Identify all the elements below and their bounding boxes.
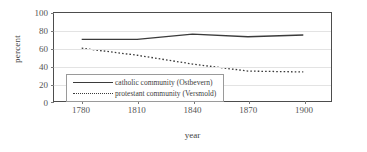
y-tick-mark xyxy=(51,13,54,14)
legend-label: catholic community (Ostbevern) xyxy=(115,78,212,87)
legend-entry-catholic: catholic community (Ostbevern) xyxy=(67,77,223,88)
x-tick-label: 1840 xyxy=(173,105,213,116)
y-tick-label: 40 xyxy=(26,63,48,72)
y-tick-label: 0 xyxy=(26,99,48,108)
y-tick-label: 80 xyxy=(26,27,48,36)
x-tick-label: 1900 xyxy=(284,105,324,116)
y-tick-label: 60 xyxy=(26,45,48,54)
chart-legend: catholic community (Ostbevern) protestan… xyxy=(66,74,224,102)
x-axis-tick-labels: 1780 1810 1840 1870 1900 xyxy=(53,105,332,119)
x-tick-label: 1780 xyxy=(61,105,101,116)
y-axis-tick-labels: 100 80 60 40 20 0 xyxy=(22,0,48,152)
series-line-protestant xyxy=(82,48,304,72)
y-tick-label: 20 xyxy=(26,81,48,90)
series-line-catholic xyxy=(82,34,304,39)
gridline xyxy=(54,31,331,32)
gridline xyxy=(54,67,331,68)
y-tick-mark xyxy=(51,102,54,103)
x-tick-mark xyxy=(249,101,250,104)
y-tick-mark xyxy=(51,67,54,68)
legend-solid-line-icon xyxy=(71,78,115,87)
line-chart: percent 100 80 60 40 20 0 1780 1810 1840… xyxy=(0,0,367,152)
x-axis-title: year xyxy=(53,130,332,140)
x-tick-label: 1810 xyxy=(117,105,157,116)
legend-dotted-line-icon xyxy=(71,89,115,98)
x-tick-label: 1870 xyxy=(228,105,268,116)
y-tick-mark xyxy=(51,31,54,32)
legend-label: protestant community (Versmold) xyxy=(115,89,216,98)
y-axis-title: percent xyxy=(12,19,22,79)
y-tick-mark xyxy=(51,49,54,50)
legend-entry-protestant: protestant community (Versmold) xyxy=(67,88,223,99)
gridline xyxy=(54,49,331,50)
y-tick-mark xyxy=(51,85,54,86)
x-tick-mark xyxy=(305,101,306,104)
y-tick-label: 100 xyxy=(26,9,48,18)
